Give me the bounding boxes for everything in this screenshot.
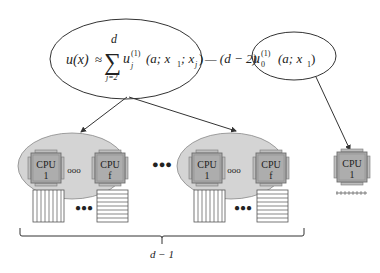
term-args-close: ) xyxy=(199,51,203,66)
storage-ellipsis: ●●● xyxy=(75,202,93,213)
clusters-ellipsis: ●●● xyxy=(152,158,172,170)
cpu-index: 1 xyxy=(44,170,49,181)
cpu-ellipsis: ooo xyxy=(227,165,241,175)
cpu-label: CPU xyxy=(197,159,217,170)
sum-lower: j=2 xyxy=(105,73,118,82)
storage-block-vertical xyxy=(194,190,225,222)
storage-block-horizontal xyxy=(97,190,128,222)
sum-symbol: ∑ xyxy=(104,49,121,76)
brace xyxy=(20,228,304,244)
cpu-label: CPU xyxy=(100,159,120,170)
cluster-1: CPU 1 ooo CPU f ●●● xyxy=(18,133,128,222)
term-args: (a; x xyxy=(146,51,170,66)
second-sub: 0 xyxy=(261,60,265,69)
cpu-index: 1 xyxy=(205,170,210,181)
brace-label: d − 1 xyxy=(150,248,174,260)
second-args-close: ) xyxy=(311,51,315,66)
formula-lhs: u(x) xyxy=(66,52,89,68)
diagram-canvas: u(x) ≈ d ∑ j=2 u (1) j (a; x 1 ; x j ) —… xyxy=(0,0,380,273)
correction-term: u (1) 0 (a; x 1 ) xyxy=(253,49,315,69)
storage-block-vertical xyxy=(33,190,64,222)
single-cpu-node: CPU 1 xyxy=(334,149,370,195)
small-storage-icon xyxy=(336,191,367,195)
sum-upper: d xyxy=(111,32,118,46)
term-base: u xyxy=(123,51,130,66)
second-args: (a; x xyxy=(278,51,302,66)
term-sup: (1) xyxy=(131,49,141,58)
storage-block-horizontal xyxy=(257,190,288,222)
formula-approx: ≈ xyxy=(95,52,102,67)
arrow-to-single-cpu xyxy=(316,77,350,150)
minus-coefficient: — (d − 2) xyxy=(204,51,257,66)
cluster-2: CPU 1 ooo CPU f ●●● xyxy=(177,133,289,222)
cpu-label: CPU xyxy=(342,158,362,169)
cpu-label: CPU xyxy=(36,159,56,170)
storage-ellipsis: ●●● xyxy=(234,202,252,213)
term-args-mid: ; x xyxy=(181,51,195,66)
cpu-label: CPU xyxy=(261,159,281,170)
arrow-to-cluster-2 xyxy=(129,97,236,131)
second-base: u xyxy=(253,51,260,66)
cpu-index: 1 xyxy=(350,169,355,180)
second-sup: (1) xyxy=(261,49,271,58)
arrow-to-cluster-1 xyxy=(81,97,127,132)
cpu-ellipsis: ooo xyxy=(67,165,81,175)
